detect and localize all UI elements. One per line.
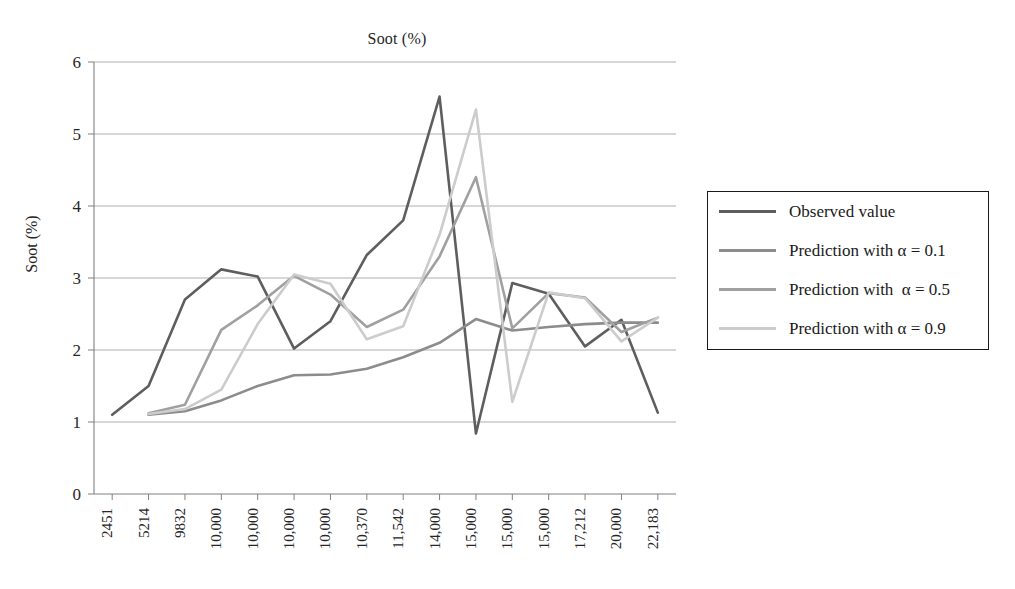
- x-tick-label-10: 15,000: [463, 508, 479, 549]
- x-tick-label-7: 10,370: [354, 508, 370, 549]
- legend-swatch-prediction-alpha-01: [719, 249, 776, 252]
- chart-container: Soot (%) Soot (%) 0123456 24515214983210…: [0, 0, 1015, 589]
- series-line-3: [149, 110, 658, 415]
- legend-label-prediction-alpha-09: Prediction with α = 0.9: [789, 320, 946, 337]
- x-tick-label-14: 20,000: [608, 508, 624, 549]
- legend-item-prediction-alpha-09: Prediction with α = 0.9: [708, 309, 988, 348]
- legend-swatch-prediction-alpha-05: [719, 288, 776, 291]
- legend-label-observed-value: Observed value: [789, 203, 895, 220]
- y-tick-label-3: 3: [73, 269, 82, 288]
- x-tick-label-4: 10,000: [245, 508, 261, 549]
- x-tick-label-12: 15,000: [536, 508, 552, 549]
- legend: Observed value Prediction with α = 0.1 P…: [707, 191, 989, 350]
- series-line-1: [149, 319, 658, 415]
- x-tick-label-6: 10,000: [317, 508, 333, 549]
- x-tick-label-9: 14,000: [427, 508, 443, 549]
- x-tick-label-1: 5214: [136, 508, 152, 539]
- y-tick-label-4: 4: [73, 197, 82, 216]
- series-line-2: [149, 177, 658, 413]
- y-tick-label-6: 6: [73, 53, 82, 72]
- legend-swatch-prediction-alpha-09: [719, 327, 776, 330]
- legend-swatch-observed-value: [719, 210, 776, 213]
- gridlines: [94, 62, 676, 494]
- series-line-0: [112, 97, 658, 434]
- y-tick-label-2: 2: [73, 341, 82, 360]
- data-series-lines: [112, 97, 658, 434]
- x-tick-label-3: 10,000: [208, 508, 224, 549]
- x-tick-label-13: 17,212: [572, 508, 588, 549]
- legend-label-prediction-alpha-01: Prediction with α = 0.1: [789, 242, 946, 259]
- x-tick-label-11: 15,000: [499, 508, 515, 549]
- legend-item-prediction-alpha-01: Prediction with α = 0.1: [708, 231, 988, 270]
- y-tick-label-5: 5: [73, 125, 82, 144]
- y-tick-label-0: 0: [73, 485, 82, 504]
- y-axis-ticks: [88, 62, 94, 494]
- x-tick-label-2: 9832: [172, 508, 188, 538]
- x-axis-ticks: [112, 494, 658, 500]
- y-tick-label-1: 1: [73, 413, 82, 432]
- x-tick-label-8: 11,542: [390, 508, 406, 549]
- x-tick-label-5: 10,000: [281, 508, 297, 549]
- legend-item-prediction-alpha-05: Prediction with α = 0.5: [708, 270, 988, 309]
- legend-item-observed-value: Observed value: [708, 192, 988, 231]
- y-axis-tick-labels: 0123456: [73, 53, 82, 504]
- x-tick-label-0: 2451: [99, 508, 115, 538]
- x-tick-label-15: 22,183: [645, 508, 661, 549]
- legend-label-prediction-alpha-05: Prediction with α = 0.5: [789, 281, 950, 298]
- x-axis-tick-labels: 24515214983210,00010,00010,00010,00010,3…: [99, 508, 661, 550]
